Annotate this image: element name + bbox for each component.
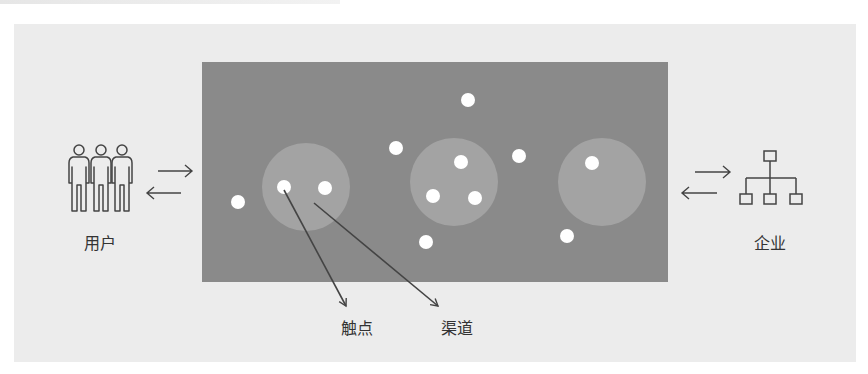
bidirectional-arrows-icon xyxy=(147,165,192,199)
dot xyxy=(419,235,433,249)
cluster-circle-2 xyxy=(410,138,498,226)
dot xyxy=(318,181,332,195)
dot xyxy=(461,93,475,107)
enterprise-label: 企业 xyxy=(754,230,786,254)
cluster-circle-3 xyxy=(558,138,646,226)
dot xyxy=(454,155,468,169)
dot xyxy=(560,229,574,243)
channel-label: 渠道 xyxy=(441,315,473,339)
users-label: 用户 xyxy=(84,230,116,254)
dot xyxy=(512,149,526,163)
ecosystem-diagram xyxy=(0,0,868,374)
org-chart-icon xyxy=(740,151,802,204)
cluster-circle-1 xyxy=(262,143,350,231)
bidirectional-arrows-icon xyxy=(682,166,730,199)
dot xyxy=(389,141,403,155)
dot xyxy=(231,195,245,209)
touchpoint-label: 触点 xyxy=(341,315,373,339)
three-people-icon xyxy=(69,145,132,211)
dot xyxy=(426,189,440,203)
dot xyxy=(585,156,599,170)
dot xyxy=(277,180,291,194)
dot xyxy=(468,191,482,205)
